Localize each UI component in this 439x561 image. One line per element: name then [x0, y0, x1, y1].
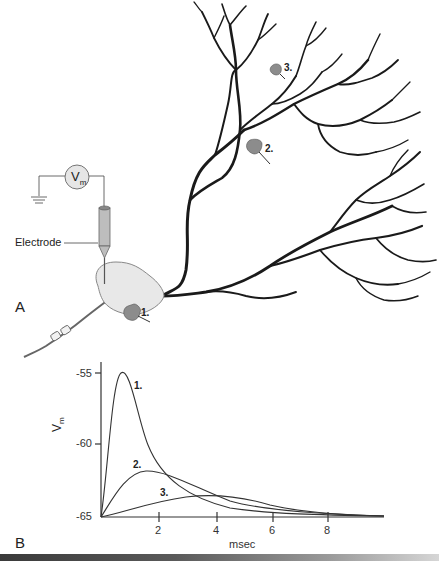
voltmeter-label: Vm — [71, 169, 86, 187]
x-axis-label: msec — [229, 538, 255, 550]
curve-3 — [101, 496, 384, 517]
panel-a-label: A — [15, 298, 25, 315]
y-axis-label: Vm — [50, 417, 66, 432]
myelin-sheath — [50, 325, 71, 342]
x-tick-8: 8 — [324, 524, 330, 536]
synapse-3-icon — [270, 64, 285, 79]
x-tick-2: 2 — [155, 524, 161, 536]
y-tick-55: -55 — [76, 367, 92, 379]
synapse-2-label: 2. — [265, 143, 273, 154]
synapse-3-label: 3. — [284, 62, 292, 73]
x-tick-6: 6 — [269, 524, 275, 536]
chart-curves — [101, 372, 384, 517]
bottom-edge-bar — [0, 554, 439, 561]
curve-2-label: 2. — [133, 459, 141, 470]
dendritic-tree — [162, 2, 436, 301]
x-tick-4: 4 — [213, 524, 219, 536]
panel-b-label: B — [15, 534, 25, 551]
y-tick-65: -65 — [76, 510, 92, 522]
curve-1 — [101, 372, 384, 517]
neuron-diagram — [0, 0, 439, 561]
synapse-1-label: 1. — [141, 307, 149, 318]
curve-3-label: 3. — [160, 487, 168, 498]
curve-1-label: 1. — [134, 380, 142, 391]
electrode-label: Electrode — [15, 236, 61, 248]
y-tick-60: -60 — [76, 437, 92, 449]
